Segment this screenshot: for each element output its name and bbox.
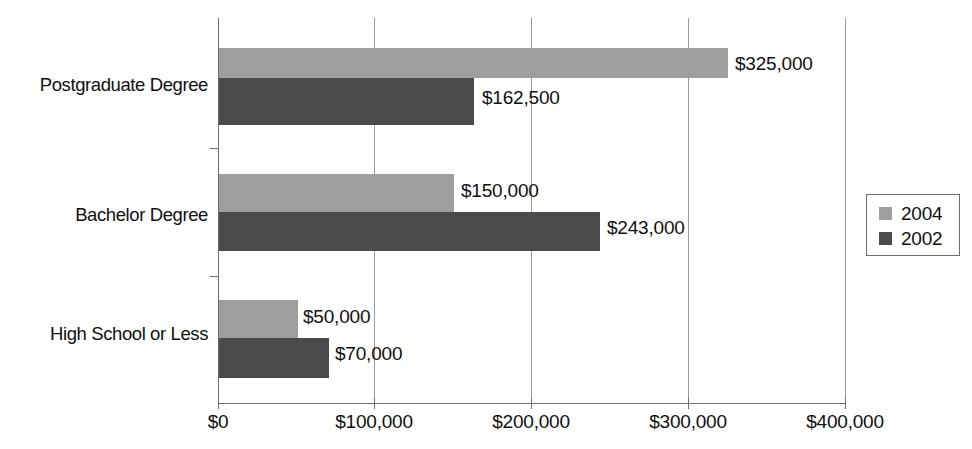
bar-value-bachelor-2004: $150,000 (461, 181, 539, 200)
x-tick-200000 (531, 398, 532, 409)
bar-value-bachelor-2002: $243,000 (607, 218, 685, 237)
x-tick-0 (218, 398, 219, 409)
y-tick-separator-2 (210, 276, 219, 277)
x-tick-label-0: $0 (208, 412, 229, 431)
legend-swatch-2002-icon (879, 232, 892, 245)
legend-label-2002: 2002 (901, 229, 942, 248)
x-tick-400000 (845, 398, 846, 409)
bar-value-highschool-2002: $70,000 (335, 344, 402, 363)
x-tick-label-300000: $300,000 (649, 412, 727, 431)
x-tick-label-200000: $200,000 (492, 412, 570, 431)
legend-item-2004: 2004 (879, 204, 942, 223)
bar-highschool-2002 (219, 338, 329, 378)
bar-chart: $325,000 $162,500 Postgraduate Degree $1… (0, 0, 972, 449)
category-label-highschool: High School or Less (0, 325, 208, 344)
legend-item-2002: 2002 (879, 229, 942, 248)
bar-bachelor-2004 (219, 174, 454, 212)
bar-value-postgraduate-2004: $325,000 (735, 54, 813, 73)
legend: 2004 2002 (866, 194, 960, 256)
bar-highschool-2004 (219, 300, 298, 338)
legend-label-2004: 2004 (901, 204, 942, 223)
legend-swatch-2004-icon (879, 207, 892, 220)
bar-value-highschool-2004: $50,000 (303, 307, 370, 326)
x-tick-300000 (688, 398, 689, 409)
bar-value-postgraduate-2002: $162,500 (482, 88, 560, 107)
x-tick-100000 (374, 398, 375, 409)
bar-postgraduate-2004 (219, 48, 728, 78)
x-tick-label-400000: $400,000 (806, 412, 884, 431)
category-label-bachelor: Bachelor Degree (0, 206, 208, 225)
y-tick-separator-1 (210, 148, 219, 149)
x-axis-line (218, 403, 846, 404)
bar-bachelor-2002 (219, 212, 600, 251)
x-tick-label-100000: $100,000 (335, 412, 413, 431)
bar-postgraduate-2002 (219, 78, 474, 125)
gridline-400000 (845, 18, 846, 403)
category-label-postgraduate: Postgraduate Degree (0, 76, 208, 95)
